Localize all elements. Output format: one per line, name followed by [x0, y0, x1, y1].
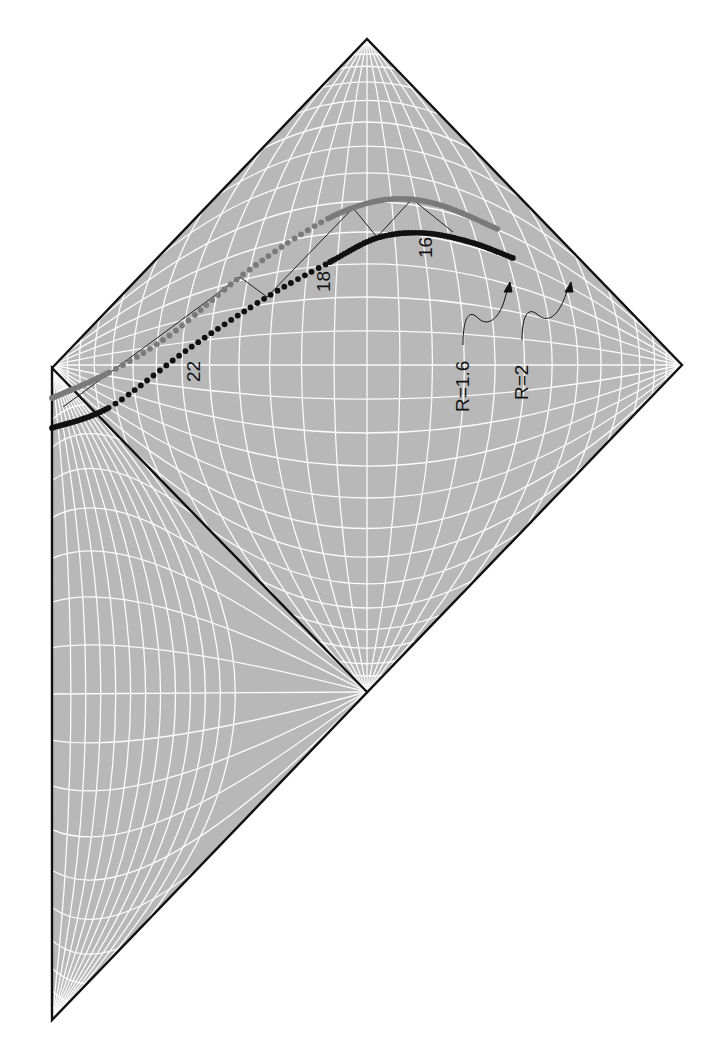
tick-label-16: 16	[415, 237, 436, 258]
penrose-diagram: 22 18 16 R=1.6 R=2	[0, 0, 726, 1060]
label-r-1-6: R=1.6	[452, 361, 473, 412]
tick-label-18: 18	[313, 271, 334, 292]
label-r-2: R=2	[511, 365, 532, 400]
tick-label-22: 22	[183, 361, 204, 382]
